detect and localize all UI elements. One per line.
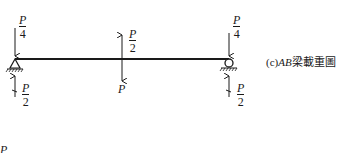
cut-off-label: P [0, 143, 7, 153]
beam-diagram [0, 0, 358, 153]
figure-caption: (c)AB梁載重圖 [266, 53, 336, 69]
roller-support-icon [220, 59, 237, 71]
pin-support-icon [6, 59, 23, 72]
left-load-label: P 4 [19, 14, 26, 40]
left-reaction-label: P 2 [22, 82, 29, 108]
mid-up-label: P 2 [129, 28, 136, 54]
mid-down-label: P [118, 82, 125, 97]
right-reaction-label: P 2 [237, 82, 244, 108]
right-load-label: P 4 [233, 14, 240, 40]
